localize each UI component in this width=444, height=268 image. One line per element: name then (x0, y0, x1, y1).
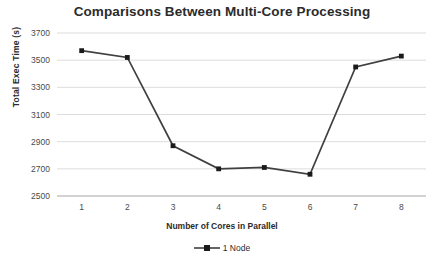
gridlines (57, 33, 426, 196)
x-tick-label: 6 (308, 202, 313, 212)
legend-label-1-node: 1 Node (223, 243, 250, 253)
data-point-marker (308, 172, 313, 177)
x-tick-label: 8 (399, 202, 404, 212)
data-series-group (79, 48, 403, 176)
data-point-marker (171, 143, 176, 148)
chart-container: Comparisons Between Multi-Core Processin… (0, 0, 444, 268)
y-tick-label: 2900 (31, 137, 50, 147)
x-axis-title: Number of Cores in Parallel (0, 221, 444, 231)
data-point-marker (125, 55, 130, 60)
y-tick-label: 3100 (31, 110, 50, 120)
data-point-marker (79, 48, 84, 53)
y-tick-label: 3500 (31, 55, 50, 65)
data-point-marker (399, 54, 404, 59)
x-tick-label: 4 (216, 202, 221, 212)
x-axis-tick-labels: 12345678 (79, 202, 404, 212)
y-tick-label: 3700 (31, 28, 50, 38)
data-point-marker (353, 65, 358, 70)
y-axis-tick-labels: 2500270029003100330035003700 (31, 28, 50, 201)
legend-line-marker-icon (194, 243, 220, 253)
chart-legend: 1 Node (0, 243, 444, 253)
x-tick-label: 3 (171, 202, 176, 212)
y-tick-label: 2700 (31, 164, 50, 174)
x-tick-label: 1 (79, 202, 84, 212)
x-tick-label: 5 (262, 202, 267, 212)
data-point-marker (262, 165, 267, 170)
x-tick-label: 7 (353, 202, 358, 212)
data-point-marker (216, 166, 221, 171)
y-tick-label: 3300 (31, 82, 50, 92)
y-tick-label: 2500 (31, 191, 50, 201)
x-tick-label: 2 (125, 202, 130, 212)
